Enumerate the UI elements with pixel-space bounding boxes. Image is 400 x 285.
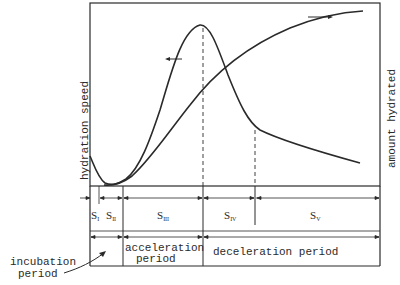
stage-s4-label: SIV <box>224 209 237 222</box>
period-arrows-row <box>91 236 379 239</box>
acceleration-period-label-line2: period <box>136 253 176 265</box>
plot-frame <box>90 3 380 186</box>
y-axis-right-label: amount hydrated <box>386 69 398 168</box>
stage-s3-label: SIII <box>157 209 169 222</box>
deceleration-period-label: deceleration period <box>213 246 338 258</box>
amount-hydrated-curve <box>104 11 363 185</box>
stage-arrows-row <box>80 197 379 200</box>
left-arrow-head-icon <box>165 57 170 61</box>
stage-s2-label: SII <box>106 209 116 222</box>
incubation-period-label-line1: incubation <box>10 256 76 268</box>
hydration-diagram: hydration speed amount hydrated SI SII S… <box>0 0 400 285</box>
stage-s1-label: SI <box>91 209 99 222</box>
hydration-speed-curve <box>90 25 360 184</box>
stage-s5-label: SV <box>310 209 321 222</box>
y-axis-left-label: hydration speed <box>79 81 91 180</box>
incubation-period-label-line2: period <box>18 268 58 280</box>
